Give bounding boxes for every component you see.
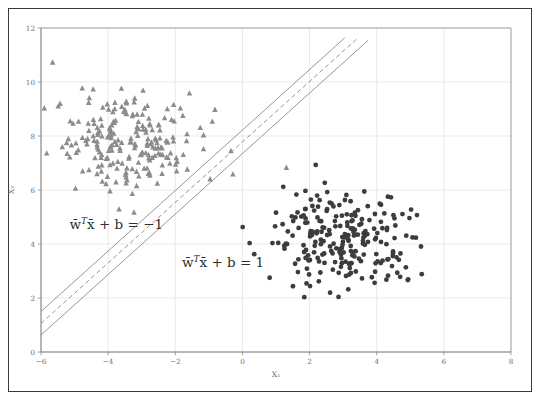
data-point <box>328 290 333 295</box>
data-point <box>325 190 330 195</box>
data-point <box>313 163 318 168</box>
data-point <box>369 275 374 280</box>
x-axis-tick-label: −4 <box>103 357 114 366</box>
data-point <box>301 243 306 248</box>
data-point <box>366 239 371 244</box>
data-point <box>330 267 335 272</box>
data-point <box>390 264 395 269</box>
data-point <box>409 207 414 212</box>
data-point <box>341 239 346 244</box>
data-point <box>315 255 320 260</box>
data-point <box>285 229 290 234</box>
data-point <box>267 275 272 280</box>
data-point <box>348 261 353 266</box>
data-point <box>308 197 313 202</box>
data-point <box>336 294 341 299</box>
data-point <box>356 208 361 213</box>
data-point <box>312 208 317 213</box>
data-point <box>379 202 384 207</box>
data-point <box>367 218 372 223</box>
data-point <box>361 252 366 257</box>
data-point <box>313 240 318 245</box>
data-point <box>322 180 327 185</box>
data-point <box>295 210 300 215</box>
data-point <box>346 287 351 292</box>
data-point <box>348 199 353 204</box>
data-point <box>289 214 294 219</box>
data-point <box>374 252 379 257</box>
data-point <box>316 204 321 209</box>
data-point <box>359 259 364 264</box>
data-point <box>349 271 354 276</box>
data-point <box>285 242 290 247</box>
data-point <box>350 218 355 223</box>
data-point <box>308 258 313 263</box>
data-point <box>329 249 334 254</box>
y-axis-tick-label: 4 <box>30 240 35 249</box>
data-point <box>341 250 346 255</box>
data-point <box>375 231 380 236</box>
data-point <box>391 251 396 256</box>
data-point <box>373 212 378 217</box>
data-point <box>359 221 364 226</box>
data-point <box>280 222 285 227</box>
data-point <box>322 261 327 266</box>
data-point <box>393 223 398 228</box>
data-point <box>360 217 365 222</box>
data-point <box>352 227 357 232</box>
data-point <box>305 266 310 271</box>
data-point <box>395 270 400 275</box>
data-point <box>372 226 377 231</box>
x-axis-tick-label: −2 <box>170 357 181 366</box>
data-point <box>407 216 412 221</box>
y-axis-title: X₂ <box>7 186 16 194</box>
data-point <box>299 214 304 219</box>
data-point <box>346 237 351 242</box>
data-point <box>380 226 385 231</box>
data-point <box>385 257 390 262</box>
data-point <box>379 219 384 224</box>
data-point <box>396 257 401 262</box>
data-point <box>281 184 286 189</box>
scatter-plot: −6−4−202468024681012X₁X₂w̄Tx̄ + b = −1w̄… <box>0 0 544 402</box>
data-point <box>303 188 308 193</box>
data-point <box>347 266 352 271</box>
x-axis-tick-label: 6 <box>442 357 447 366</box>
data-point <box>327 200 332 205</box>
y-axis-tick-label: 0 <box>30 348 35 357</box>
data-point <box>372 280 377 285</box>
data-point <box>240 225 245 230</box>
data-point <box>315 193 320 198</box>
data-point <box>405 278 410 283</box>
data-point <box>332 219 337 224</box>
data-point <box>338 247 343 252</box>
data-point <box>339 256 344 261</box>
data-point <box>419 272 424 277</box>
data-point <box>296 270 301 275</box>
data-point <box>337 203 342 208</box>
data-point <box>400 212 405 217</box>
data-point <box>340 235 345 240</box>
data-point <box>403 265 408 270</box>
data-point <box>247 241 252 246</box>
y-axis-tick-label: 8 <box>30 132 35 141</box>
data-point <box>276 241 281 246</box>
data-point <box>338 224 343 229</box>
data-point <box>318 270 323 275</box>
data-point <box>350 250 355 255</box>
data-point <box>398 251 403 256</box>
data-point <box>336 270 341 275</box>
data-point <box>307 272 312 277</box>
data-point <box>321 239 326 244</box>
data-point <box>362 233 367 238</box>
data-point <box>303 216 308 221</box>
data-point <box>294 192 299 197</box>
data-point <box>302 295 307 300</box>
data-point <box>410 235 415 240</box>
y-axis-tick-label: 2 <box>30 294 35 303</box>
data-point <box>375 259 380 264</box>
x-axis-tick-label: −6 <box>36 357 47 366</box>
data-point <box>379 239 384 244</box>
data-point <box>296 257 301 262</box>
data-point <box>303 220 308 225</box>
